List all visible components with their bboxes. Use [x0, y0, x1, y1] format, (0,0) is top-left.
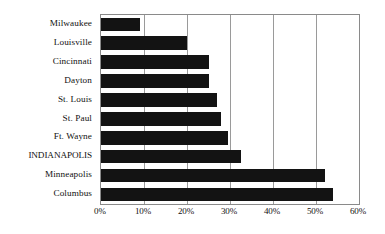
category-axis-label: Columbus: [53, 184, 92, 203]
category-axis-label: Louisville: [54, 33, 92, 52]
category-axis-label: Milwaukee: [50, 14, 92, 33]
bar-row: [101, 147, 359, 166]
bar: [101, 131, 228, 145]
plot-area: [100, 14, 360, 205]
category-axis: MilwaukeeLouisvilleCincinnatiDaytonSt. L…: [0, 14, 96, 203]
value-axis: 0%10%20%30%40%50%60%: [100, 205, 358, 219]
bar: [101, 55, 209, 69]
bar: [101, 188, 333, 202]
value-axis-tick-label: 50%: [307, 205, 323, 218]
bar: [101, 18, 140, 32]
bar-row: [101, 91, 359, 110]
bar-row: [101, 166, 359, 185]
value-axis-tick-label: 40%: [264, 205, 280, 218]
bar-series: [101, 15, 359, 204]
bar-row: [101, 128, 359, 147]
bar: [101, 36, 187, 50]
bar-row: [101, 53, 359, 72]
value-axis-tick-label: 10%: [135, 205, 151, 218]
value-axis-tick-label: 30%: [221, 205, 237, 218]
value-axis-tick-label: 60%: [350, 205, 366, 218]
category-axis-label: INDIANAPOLIS: [28, 146, 92, 165]
value-axis-tick-label: 0%: [94, 205, 106, 218]
category-axis-label: St. Paul: [63, 109, 92, 128]
bar-row: [101, 34, 359, 53]
bar: [101, 150, 241, 164]
bar-row: [101, 185, 359, 204]
bar: [101, 112, 221, 126]
category-axis-label: Dayton: [64, 71, 92, 90]
category-axis-label: Minneapolis: [45, 165, 92, 184]
category-axis-label: Ft. Wayne: [54, 127, 92, 146]
value-axis-tick-label: 20%: [178, 205, 194, 218]
bar-row: [101, 72, 359, 91]
bar-chart: MilwaukeeLouisvilleCincinnatiDaytonSt. L…: [0, 0, 385, 234]
bar: [101, 74, 209, 88]
category-axis-label: St. Louis: [58, 90, 92, 109]
bar: [101, 169, 325, 183]
category-axis-label: Cincinnati: [53, 52, 92, 71]
bar: [101, 93, 217, 107]
bar-row: [101, 15, 359, 34]
bar-row: [101, 110, 359, 129]
